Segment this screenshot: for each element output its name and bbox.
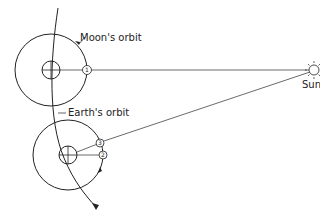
- sunline-3: [104, 72, 310, 141]
- moon-position-2-label: 2: [101, 151, 105, 158]
- moon-phases-diagram: 1 Moon's orbit Sun Earth's orbit 3 2: [0, 0, 320, 223]
- moon-position-3-label: 3: [98, 139, 102, 146]
- moon-orbit-arrow-lower: [98, 167, 102, 173]
- sun-label: Sun: [302, 79, 320, 90]
- earth-orbit-arrow: [92, 203, 99, 210]
- earth-orbit-label: Earth's orbit: [68, 107, 129, 118]
- moon-position-1-label: 1: [85, 66, 89, 73]
- moon-orbit-label: Moon's orbit: [80, 32, 142, 43]
